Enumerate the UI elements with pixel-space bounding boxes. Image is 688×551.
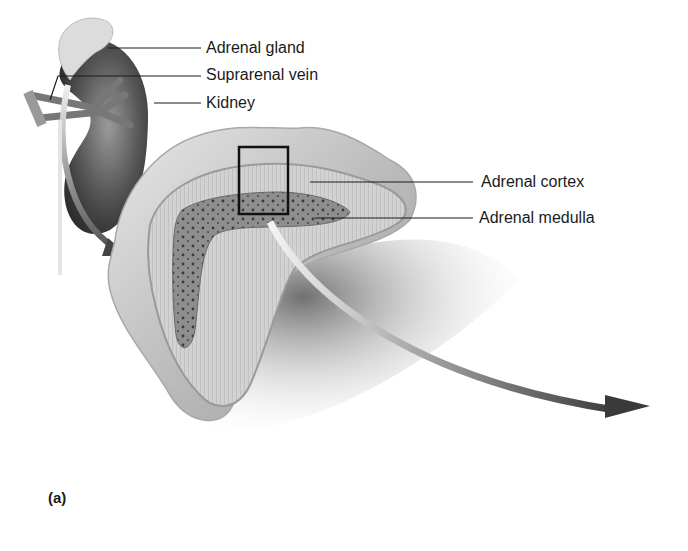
label-adrenal-medulla: Adrenal medulla [479,210,595,226]
panel-label: (a) [48,489,66,506]
label-suprarenal-vein: Suprarenal vein [206,67,318,83]
arrow-head [605,395,650,418]
label-adrenal-cortex: Adrenal cortex [481,174,584,190]
label-adrenal-gland: Adrenal gland [206,40,305,56]
adrenal-gland-illustration [0,0,688,551]
label-kidney: Kidney [206,95,255,111]
